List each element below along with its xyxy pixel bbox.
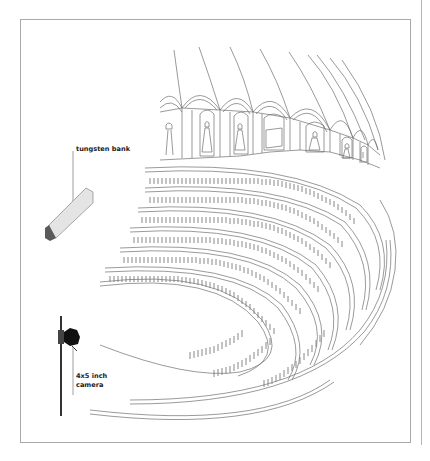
amphitheater-illustration (0, 0, 430, 461)
camera-label-line2: camera (76, 381, 103, 390)
seat-marks (110, 178, 354, 387)
tungsten-bank-light (45, 151, 93, 241)
camera-on-stand (58, 316, 80, 416)
camera-label-line1: 4x5 inch (76, 372, 107, 381)
camera-body (64, 328, 80, 346)
tungsten-bank-label: tungsten bank (76, 145, 130, 154)
arches (160, 95, 378, 150)
seating-tiers (90, 167, 396, 420)
niche-wall (160, 108, 380, 168)
